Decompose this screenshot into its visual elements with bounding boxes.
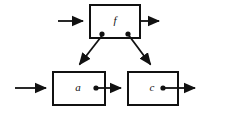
block-flow-diagram: f a <box>0 0 236 127</box>
f-to-a-branch-arrow <box>80 35 103 65</box>
f-left-tap-dot <box>99 31 104 36</box>
f-right-tap-dot <box>125 31 130 36</box>
block-a-label: a <box>75 81 81 93</box>
c-output-tap-dot <box>160 85 165 90</box>
diagram-canvas: f a <box>0 0 236 127</box>
connection-a-to-c <box>93 85 121 90</box>
block-f: f <box>90 5 140 38</box>
a-output-tap-dot <box>93 85 98 90</box>
f-to-c-branch-arrow <box>129 35 151 65</box>
block-c-label: c <box>150 81 155 93</box>
